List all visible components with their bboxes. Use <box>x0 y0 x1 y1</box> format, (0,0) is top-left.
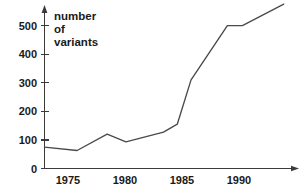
y-axis-title-line-3: variants <box>54 36 98 48</box>
y-tick-label-300: 300 <box>19 77 37 89</box>
y-tick-label-0: 0 <box>31 163 37 175</box>
x-tick-label-1980: 1980 <box>113 174 137 186</box>
y-axis-title: number of variants <box>54 10 98 48</box>
x-tick-label-1990: 1990 <box>227 174 251 186</box>
y-tick-label-100: 100 <box>19 134 37 146</box>
data-series-line <box>45 4 284 150</box>
x-axis-arrow-icon <box>291 166 299 171</box>
y-tick-label-500: 500 <box>19 20 37 32</box>
x-tick-label-1975: 1975 <box>56 174 80 186</box>
chart-canvas: 0 100 200 300 400 500 1975 1980 1985 199… <box>0 0 306 195</box>
y-axis-title-line-2: of <box>54 23 65 35</box>
x-tick-label-1985: 1985 <box>170 174 194 186</box>
y-axis-title-line-1: number <box>54 10 97 22</box>
y-tick-label-400: 400 <box>19 48 37 60</box>
line-chart: 0 100 200 300 400 500 1975 1980 1985 199… <box>0 0 306 195</box>
y-tick-label-200: 200 <box>19 105 37 117</box>
y-axis-arrow-icon <box>42 5 48 13</box>
